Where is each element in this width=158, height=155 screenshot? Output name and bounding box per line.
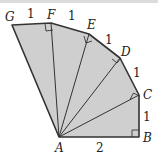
label-g: G: [5, 10, 15, 24]
length-bc: 1: [143, 110, 151, 124]
label-e: E: [86, 18, 96, 32]
label-f: F: [46, 8, 56, 22]
length-cd: 1: [133, 66, 141, 80]
label-d: D: [120, 45, 131, 59]
label-c: C: [143, 88, 152, 102]
length-fg: 1: [27, 7, 35, 21]
length-ab: 2: [96, 141, 104, 155]
length-ef: 1: [68, 9, 76, 23]
right-triangle-spiral-diagram: G F E D C B A 1 1 1 1 1 2: [0, 0, 158, 155]
label-b: B: [142, 131, 152, 145]
length-de: 1: [105, 33, 113, 47]
label-a: A: [54, 141, 64, 155]
